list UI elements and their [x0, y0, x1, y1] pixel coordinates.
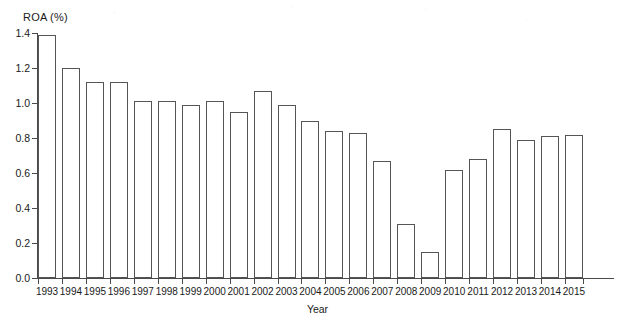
x-axis-tick [325, 279, 326, 284]
bar-2014 [541, 136, 559, 278]
x-axis-tick [397, 279, 398, 284]
bar-1996 [110, 82, 128, 278]
x-axis-tick [158, 279, 159, 284]
x-axis-tick [206, 279, 207, 284]
bar-1993 [38, 35, 56, 278]
bar-2015 [565, 135, 583, 279]
x-axis-tick [254, 279, 255, 284]
x-axis-tick [62, 279, 63, 284]
bar-2000 [206, 101, 224, 278]
x-axis-tick [86, 279, 87, 284]
bar-2008 [397, 224, 415, 278]
y-axis-tick-label: 0.2 [0, 238, 30, 248]
bar-2009 [421, 252, 439, 278]
bar-2003 [278, 105, 296, 278]
x-axis-tick [349, 279, 350, 284]
y-axis-tick-label: 0.8 [0, 133, 30, 143]
y-axis-tick-label: 0.4 [0, 203, 30, 213]
plot-area: 0.00.20.40.60.81.01.21.41993199419951996… [0, 0, 635, 321]
y-axis-tick-label: 1.0 [0, 98, 30, 108]
bar-2012 [493, 129, 511, 278]
x-axis-tick [38, 279, 39, 284]
x-axis-tick [373, 279, 374, 284]
bar-2013 [517, 140, 535, 278]
x-axis-tick [493, 279, 494, 284]
bar-2006 [349, 133, 367, 278]
x-axis-tick [110, 279, 111, 284]
x-axis-tick [541, 279, 542, 284]
y-axis-tick-label: 1.2 [0, 63, 30, 73]
x-axis-tick [517, 279, 518, 284]
x-axis-tick [230, 279, 231, 284]
y-axis-tick-label: 0.0 [0, 273, 30, 283]
x-axis-tick [445, 279, 446, 284]
bar-2002 [254, 91, 272, 278]
x-axis-tick [134, 279, 135, 284]
bar-1995 [86, 82, 104, 278]
y-axis-tick-label: 0.6 [0, 168, 30, 178]
bar-1998 [158, 101, 176, 278]
x-axis-tick [182, 279, 183, 284]
bar-2011 [469, 159, 487, 278]
bar-2001 [230, 112, 248, 278]
x-axis-label-2015: 2015 [560, 286, 588, 297]
bar-1999 [182, 105, 200, 278]
roa-bar-chart: ROA (%) 0.00.20.40.60.81.01.21.419931994… [0, 0, 635, 321]
y-axis-tick-label: 1.4 [0, 28, 30, 38]
x-axis-tick [278, 279, 279, 284]
bar-2004 [301, 121, 319, 279]
bar-1994 [62, 68, 80, 278]
x-axis-tick [469, 279, 470, 284]
bar-2005 [325, 131, 343, 278]
x-axis-tick [583, 279, 584, 284]
x-axis-tick [421, 279, 422, 284]
x-axis-title: Year [0, 303, 635, 315]
bar-2010 [445, 170, 463, 279]
bar-2007 [373, 161, 391, 278]
bar-1997 [134, 101, 152, 278]
x-axis-tick [301, 279, 302, 284]
x-axis-tick [565, 279, 566, 284]
